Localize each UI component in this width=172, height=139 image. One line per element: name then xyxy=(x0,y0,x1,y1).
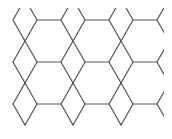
tiling-diagram xyxy=(0,0,172,139)
rhombus-tile xyxy=(109,0,133,41)
rhombus-tile xyxy=(61,83,85,125)
rhombus-tile xyxy=(61,41,85,83)
rhombus-tile xyxy=(13,83,37,125)
rhombus-tile xyxy=(109,83,133,125)
rhombus-tile xyxy=(13,41,37,83)
rhombus-tile xyxy=(157,83,172,125)
tiling-edges xyxy=(13,0,172,125)
rhombus-tile xyxy=(13,0,37,41)
rhombus-tile xyxy=(109,41,133,83)
rhombus-tile xyxy=(157,41,172,83)
rhombus-tile xyxy=(157,0,172,41)
rhombus-tile xyxy=(61,0,85,41)
